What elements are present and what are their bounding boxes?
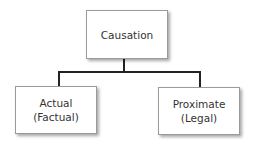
- causation-label: Causation: [101, 28, 153, 42]
- actual-factual-label: Actual (Factual): [33, 96, 79, 124]
- actual-factual-node: Actual (Factual): [15, 86, 97, 134]
- left-connector-stem: [58, 71, 60, 86]
- horizontal-connector-bar: [58, 71, 201, 73]
- proximate-legal-label: Proximate (Legal): [173, 97, 226, 125]
- causation-node: Causation: [86, 10, 168, 59]
- right-connector-stem: [199, 71, 201, 87]
- proximate-legal-node: Proximate (Legal): [158, 87, 240, 135]
